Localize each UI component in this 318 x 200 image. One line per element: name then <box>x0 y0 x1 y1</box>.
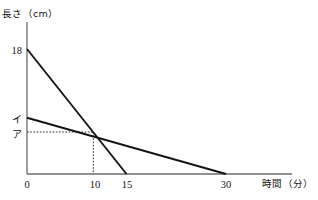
series-group <box>27 49 226 174</box>
data-line-shallow <box>27 118 226 174</box>
plot-area <box>0 0 318 200</box>
graph-figure: 長さ（cm） 時間（分） 18 イ ア 0 10 15 30 <box>0 0 318 200</box>
data-line-steep <box>27 49 126 174</box>
guide-lines-group <box>27 132 93 174</box>
